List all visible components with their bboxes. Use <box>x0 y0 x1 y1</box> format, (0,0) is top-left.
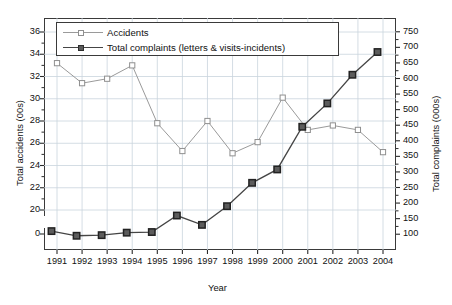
data-point-complaints-1992 <box>73 233 79 239</box>
y-axis-left-title: Total accidents (00s) <box>14 100 25 186</box>
data-point-accidents-2002 <box>330 123 335 128</box>
chart-figure: 0202224262830323436100150200250300350400… <box>0 0 452 305</box>
y-axis-right-tick-450: 450 <box>403 120 433 129</box>
y-axis-left-tick-0: 0 <box>10 229 40 238</box>
data-point-complaints-2003 <box>349 72 355 78</box>
y-axis-right-tick-200: 200 <box>403 198 433 207</box>
y-axis-right-tick-300: 300 <box>403 167 433 176</box>
y-axis-right-tick-350: 350 <box>403 151 433 160</box>
data-point-accidents-1994 <box>130 63 135 68</box>
y-axis-right-tick-250: 250 <box>403 183 433 192</box>
y-axis-right-tick-700: 700 <box>403 42 433 51</box>
x-axis-title: Year <box>208 282 227 293</box>
data-point-complaints-2002 <box>324 100 330 106</box>
legend-item-complaints: Total complaints (letters & visits-incid… <box>63 40 285 55</box>
y-axis-right-tick-600: 600 <box>403 74 433 83</box>
y-axis-left-tick-20: 20 <box>10 205 40 214</box>
filled-square-marker-icon <box>63 42 103 54</box>
y-axis-right-tick-750: 750 <box>403 27 433 36</box>
y-axis-right-tick-500: 500 <box>403 105 433 114</box>
data-point-accidents-1998 <box>230 151 235 156</box>
data-point-accidents-1992 <box>79 81 84 86</box>
data-point-accidents-2003 <box>355 127 360 132</box>
data-point-complaints-2000 <box>274 166 280 172</box>
data-point-accidents-2000 <box>280 95 285 100</box>
y-axis-left-tick-32: 32 <box>10 72 40 81</box>
data-point-accidents-1993 <box>105 76 110 81</box>
y-axis-right-title: Total complaints (000s) <box>430 96 441 192</box>
data-point-complaints-1999 <box>249 180 255 186</box>
data-point-complaints-1998 <box>224 203 230 209</box>
x-axis-tick-2004: 2004 <box>368 257 398 266</box>
legend-item-accidents: Accidents <box>63 25 149 40</box>
y-axis-left-tick-34: 34 <box>10 49 40 58</box>
data-point-accidents-1999 <box>255 140 260 145</box>
data-point-complaints-1995 <box>149 229 155 235</box>
data-point-complaints-1993 <box>98 232 104 238</box>
data-point-complaints-1996 <box>174 212 180 218</box>
y-axis-right-tick-650: 650 <box>403 58 433 67</box>
data-point-accidents-2004 <box>380 150 385 155</box>
legend-label-accidents: Accidents <box>103 27 149 38</box>
data-point-complaints-1994 <box>124 229 130 235</box>
legend-label-complaints: Total complaints (letters & visits-incid… <box>103 42 285 53</box>
chart-legend: Accidents Total complaints (letters & vi… <box>56 22 339 56</box>
data-point-complaints-2004 <box>374 49 380 55</box>
y-axis-right-tick-100: 100 <box>403 229 433 238</box>
data-point-accidents-1991 <box>54 61 59 66</box>
data-point-accidents-1995 <box>155 121 160 126</box>
data-point-complaints-1997 <box>199 222 205 228</box>
data-point-complaints-1991 <box>48 228 54 234</box>
y-axis-right-tick-550: 550 <box>403 89 433 98</box>
data-point-accidents-1996 <box>180 148 185 153</box>
y-axis-left-tick-36: 36 <box>10 27 40 36</box>
y-axis-right-tick-150: 150 <box>403 214 433 223</box>
y-axis-right-tick-400: 400 <box>403 136 433 145</box>
data-point-complaints-2001 <box>299 124 305 130</box>
open-square-marker-icon <box>63 27 103 39</box>
data-point-accidents-1997 <box>205 118 210 123</box>
